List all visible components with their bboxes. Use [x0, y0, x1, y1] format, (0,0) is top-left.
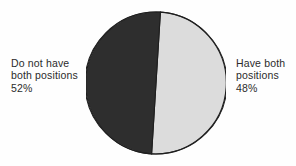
label-have-both-positions: Have both positions 48% — [236, 57, 285, 94]
label-left-line-2: both positions — [11, 69, 78, 81]
pie-slice-do-not-have-both — [86, 12, 160, 154]
label-left-percent: 52% — [11, 82, 78, 94]
label-do-not-have-both-positions: Do not have both positions 52% — [11, 57, 78, 94]
label-right-percent: 48% — [236, 82, 285, 94]
label-left-line-1: Do not have — [11, 57, 78, 69]
label-right-line-1: Have both — [236, 57, 285, 69]
pie-chart-figure: Do not have both positions 52% Have both… — [0, 0, 296, 166]
label-right-line-2: positions — [236, 69, 285, 81]
pie-slice-have-both — [152, 12, 226, 154]
pie-chart-graphic — [86, 10, 226, 156]
pie-svg — [86, 10, 226, 156]
